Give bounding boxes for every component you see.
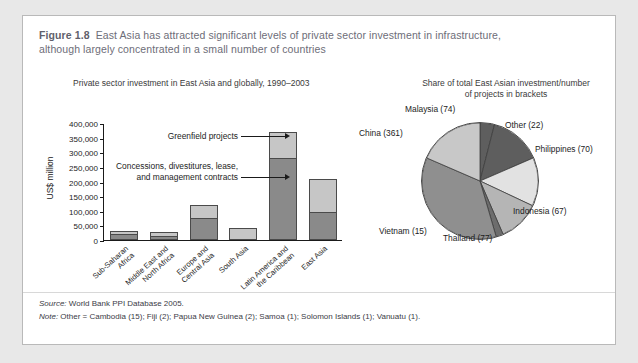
- figure-title-line1: East Asia has attracted significant leve…: [96, 29, 501, 41]
- y-axis-tick-label: 350,000: [69, 134, 98, 143]
- footer-divider: [23, 292, 615, 293]
- annotation-leader-line: [241, 136, 285, 137]
- pie-slice-label: Indonesia (67): [513, 206, 567, 216]
- figure-number: Figure 1.8: [39, 29, 90, 41]
- x-axis-label: Europe andCentral Asia: [174, 244, 216, 285]
- figure-title-line2: although largely concentrated in a small…: [39, 43, 326, 55]
- y-axis-tick: [100, 153, 104, 154]
- pie-chart-title-line1: Share of total East Asian investment/num…: [422, 78, 590, 88]
- y-axis-tick: [100, 226, 104, 227]
- y-axis-tick-label: 100,000: [69, 207, 98, 216]
- y-axis-tick: [100, 124, 104, 125]
- bar: [309, 179, 337, 240]
- pie-slice-label: Vietnam (15): [379, 226, 427, 236]
- annotation-arrow: [285, 133, 290, 139]
- pie-chart-title-line2: of projects in brackets: [465, 89, 548, 99]
- bar: [110, 231, 138, 240]
- bar-chart-panel: Private sector investment in East Asia a…: [33, 78, 353, 303]
- annotation-concessions-line1: Concessions, divestitures, lease,: [53, 161, 238, 172]
- y-axis-tick: [100, 139, 104, 140]
- bar: [229, 228, 257, 240]
- bar-segment-greenfield: [229, 228, 257, 240]
- y-axis-tick-label: 300,000: [69, 149, 98, 158]
- note-line: Note: Other = Cambodia (15); Fiji (2); P…: [39, 311, 599, 324]
- bar-chart-title: Private sector investment in East Asia a…: [73, 78, 353, 88]
- pie-chart-title: Share of total East Asian investment/num…: [361, 78, 638, 100]
- x-axis-label: East Asia: [300, 244, 330, 272]
- bar: [269, 132, 297, 240]
- y-axis-tick: [100, 241, 104, 242]
- y-axis-tick-label: 50,000: [74, 222, 98, 231]
- figure-title: Figure 1.8 East Asia has attracted signi…: [39, 28, 599, 56]
- x-axis-label-line: East Asia: [300, 244, 330, 272]
- annotation-concessions: Concessions, divestitures, lease,and man…: [53, 161, 238, 183]
- pie-slice-label: Thailand (77): [443, 233, 492, 243]
- source-line: Source: World Bank PPI Database 2005.: [39, 298, 599, 311]
- bar-segment-greenfield: [309, 179, 337, 211]
- figure-footer: Source: World Bank PPI Database 2005. No…: [39, 298, 599, 323]
- annotation-arrow: [285, 174, 290, 180]
- bar-segment-greenfield: [190, 205, 218, 218]
- y-axis-tick-label: 150,000: [69, 193, 98, 202]
- annotation-greenfield: Greenfield projects: [123, 131, 238, 142]
- y-axis-tick-label: 400,000: [69, 120, 98, 129]
- bar-segment-concessions: [269, 158, 297, 240]
- annotation-leader-line: [241, 177, 285, 178]
- source-label: Source:: [39, 299, 67, 308]
- x-axis-label-line: South Asia: [217, 244, 250, 275]
- pie-slice-label: Malaysia (74): [405, 104, 455, 114]
- bar: [190, 205, 218, 240]
- figure-card: Figure 1.8 East Asia has attracted signi…: [22, 15, 616, 345]
- pie-chart-graphic: [421, 122, 539, 240]
- annotation-concessions-line2: and management contracts: [53, 172, 238, 183]
- note-text: Other = Cambodia (15); Fiji (2); Papua N…: [58, 312, 420, 321]
- y-axis-tick: [100, 212, 104, 213]
- note-label: Note:: [39, 312, 58, 321]
- x-axis-label: South Asia: [217, 244, 250, 275]
- bar: [150, 232, 178, 240]
- bar-segment-concessions: [110, 234, 138, 240]
- bar-segment-concessions: [190, 218, 218, 240]
- y-axis-tick: [100, 197, 104, 198]
- bar-segment-concessions: [150, 236, 178, 240]
- pie-chart-panel: Share of total East Asian investment/num…: [353, 78, 638, 303]
- pie-slice-label: Philippines (70): [535, 144, 593, 154]
- pie-slice-label: China (361): [359, 128, 403, 138]
- y-axis-tick-label: 0: [94, 237, 98, 246]
- bar-segment-concessions: [309, 212, 337, 240]
- source-text: World Bank PPI Database 2005.: [67, 299, 184, 308]
- pie-slice-label: Other (22): [505, 120, 543, 130]
